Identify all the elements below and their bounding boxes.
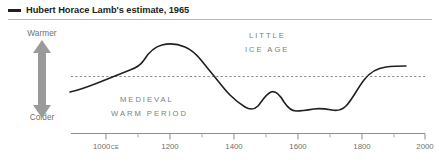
x-tick-label-1400: 1400 (225, 142, 242, 151)
annotation-medieval-warm-period-line2: WARM PERIOD (111, 109, 188, 118)
chart-figure: Hubert Horace Lamb's estimate, 1965 Warm… (0, 0, 439, 163)
double-arrow-vertical-icon (33, 40, 51, 118)
x-axis-minor-ticks (138, 134, 394, 138)
x-tick-label-1000: 1000CE (93, 142, 119, 151)
annotation-little-ice-age-line1: LITTLE (249, 31, 286, 40)
x-tick-label-1600: 1600 (289, 142, 306, 151)
x-tick-label-2000: 2000 (416, 142, 433, 151)
plot-area (0, 0, 439, 163)
x-tick-label-1800: 1800 (353, 142, 370, 151)
annotation-little-ice-age-line2: ICE AGE (245, 45, 289, 54)
x-tick-label-1200: 1200 (161, 142, 178, 151)
annotation-medieval-warm-period-line1: MEDIEVAL (120, 95, 174, 104)
